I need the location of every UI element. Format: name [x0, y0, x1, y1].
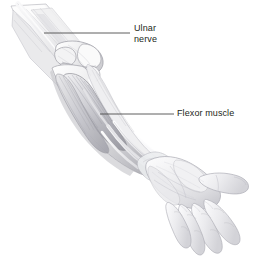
label-flexor-muscle-line1: Flexor muscle: [177, 108, 234, 118]
anatomy-figure: Ulnar nerve Flexor muscle: [0, 0, 255, 264]
forearm-illustration: [0, 0, 255, 264]
label-ulnar-nerve-line1: Ulnar: [134, 23, 156, 33]
label-ulnar-nerve: Ulnar nerve: [134, 23, 157, 45]
label-flexor-muscle: Flexor muscle: [177, 108, 234, 119]
hand-group: [146, 157, 249, 256]
label-ulnar-nerve-line2: nerve: [134, 34, 157, 45]
